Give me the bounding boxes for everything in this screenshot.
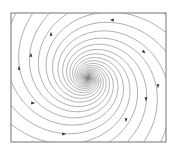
trajectory-curve (0, 0, 130, 144)
arrow-head-icon (18, 66, 21, 70)
arrow-head-icon (50, 32, 53, 36)
arrow-head-icon (157, 84, 160, 88)
arrow-head-icon (31, 102, 35, 105)
trajectory-curve (0, 0, 137, 134)
spiral-diagram (0, 0, 175, 151)
arrow-head-icon (145, 97, 148, 101)
arrow-head-icon (62, 133, 66, 136)
trajectory-curve (0, 0, 138, 151)
trajectory-curve (19, 0, 175, 118)
trajectory-curve (0, 31, 170, 151)
trajectory-curve (6, 0, 175, 125)
phase-portrait (0, 0, 175, 151)
arrow-head-icon (110, 19, 114, 22)
arrow-head-icon (125, 118, 128, 122)
trajectory-curve (0, 32, 147, 151)
trajectories (0, 0, 175, 151)
arrow-head-icon (142, 50, 147, 55)
